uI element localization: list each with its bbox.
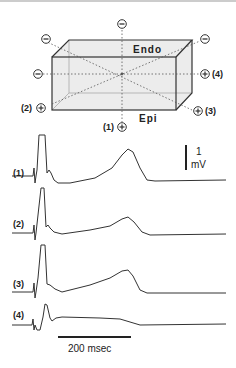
electrode-lead-1-icon [118,123,127,132]
lead-4-label: (4) [212,69,223,79]
trace-2-label: (2) [13,219,24,229]
voltage-scale-value: 1 [196,146,202,157]
ecg-lead-figure: Endo Epi (4) (2) (3) (1) [0,0,236,368]
electrode-lead-3-icon [194,107,203,116]
trace-2 [12,188,226,240]
trace-4-label: (4) [13,310,24,320]
electrode-top-center-icon [118,20,127,29]
lead-1-label: (1) [103,122,114,132]
endo-label: Endo [133,44,162,55]
lead-2-label: (2) [21,103,32,113]
trace-1-label: (1) [13,168,24,178]
trace-4 [12,304,226,330]
electrode-top-left-icon [42,35,51,44]
electrode-lead-4-icon [201,70,210,79]
trace-3-label: (3) [13,279,24,289]
time-scale-label: 200 msec [68,343,111,354]
voltage-scale-unit: mV [191,159,206,170]
electrode-lead-2-icon [37,104,46,113]
lead-3-label: (3) [205,106,216,116]
epi-label: Epi [139,113,158,124]
electrode-mid-left-icon [34,70,43,79]
electrode-top-right-icon [201,35,210,44]
trace-3 [12,245,226,298]
